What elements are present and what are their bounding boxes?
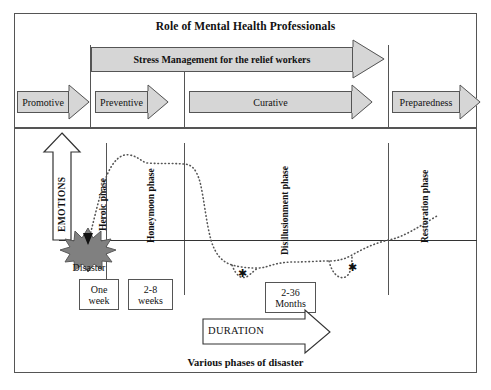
phase-label-restoration: Restoration phase [420, 170, 430, 243]
duration-box-two-thirtysix-months-line2: Months [266, 298, 315, 309]
promotive-arrowhead [69, 85, 90, 119]
phase-label-honeymoon: Honeymoon phase [146, 168, 156, 243]
intervention-label-promotive: Promotive [18, 97, 68, 108]
emotion-baseline [59, 240, 477, 241]
emotions-axis-label: EMOTIONS [57, 177, 67, 232]
phase-divider-restoration [388, 143, 389, 295]
phase-label-heroic: Heroic phase [98, 178, 108, 231]
phase-divider-honeymoon [184, 143, 185, 295]
intervention-arrow-curative: Curative [189, 91, 352, 113]
duration-box-two-thirtysix-months: 2-36 Months [265, 282, 316, 313]
intervention-arrow-promotive: Promotive [17, 91, 69, 113]
preventive-arrowhead [148, 85, 169, 119]
marker-asterisk-2: ✱ [348, 262, 357, 273]
preparedness-arrowhead [460, 85, 481, 119]
intervention-label-curative: Curative [190, 97, 351, 108]
duration-box-one-week-line2: week [80, 295, 118, 306]
curative-arrowhead [352, 85, 373, 119]
duration-box-one-week: One week [79, 279, 119, 310]
duration-box-one-week-line1: One [80, 284, 118, 295]
stress-management-arrowhead [353, 40, 385, 78]
duration-box-two-eight-weeks-line1: 2-8 [129, 284, 172, 295]
duration-axis-label: DURATION [208, 325, 264, 336]
diagram-bottom-title: Various phases of disaster [14, 357, 477, 368]
top-divider-3 [388, 45, 389, 128]
stress-management-label: Stress Management for the relief workers [92, 54, 352, 65]
intervention-arrow-preparedness: Preparedness [392, 91, 460, 113]
disaster-label: Disaster [60, 262, 118, 273]
stress-management-arrow: Stress Management for the relief workers [91, 47, 353, 72]
top-divider-2 [184, 72, 185, 128]
intervention-label-preventive: Preventive [96, 97, 147, 108]
intervention-label-preparedness: Preparedness [393, 97, 459, 108]
duration-box-two-eight-weeks-line2: weeks [129, 295, 172, 306]
disaster-phases-diagram: Role of Mental Health Professionals Stre… [0, 0, 491, 390]
intervention-arrow-preventive: Preventive [95, 91, 148, 113]
marker-asterisk-1: ✱ [238, 268, 247, 279]
duration-box-two-thirtysix-months-line1: 2-36 [266, 287, 315, 298]
phase-label-disillusionment: Disillusionment phase [280, 166, 290, 255]
duration-box-two-eight-weeks: 2-8 weeks [128, 279, 173, 310]
bottom-band-frame [14, 128, 477, 373]
diagram-top-title: Role of Mental Health Professionals [14, 20, 477, 32]
